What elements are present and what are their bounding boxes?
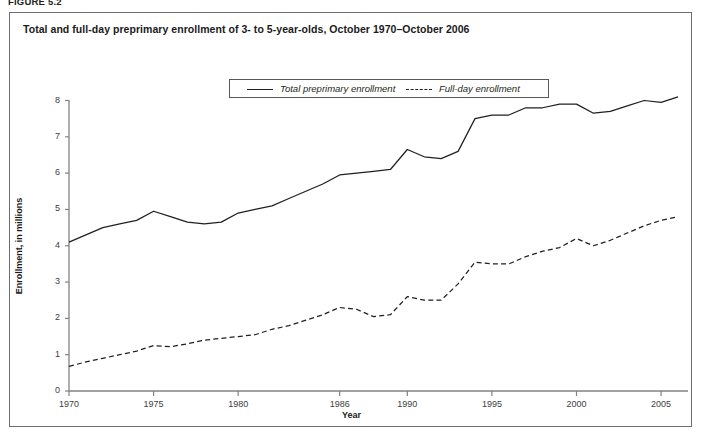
y-axis-tick-label: 1	[44, 349, 60, 359]
figure-label: FIGURE 5.2	[8, 0, 62, 9]
figure-panel: Total and full-day preprimary enrollment…	[9, 12, 692, 427]
x-axis-tick-label: 2005	[641, 399, 681, 409]
y-axis-tick-label: 8	[44, 95, 60, 105]
x-axis-tick-label: 1986	[320, 399, 360, 409]
x-axis-tick-label: 1975	[134, 399, 174, 409]
x-axis-tick-label: 1990	[387, 399, 427, 409]
y-axis-tick-label: 7	[44, 131, 60, 141]
chart-plot-area	[10, 13, 693, 428]
y-axis-tick-label: 2	[44, 312, 60, 322]
y-axis-tick-label: 5	[44, 203, 60, 213]
series-line-full-day-enrollment	[69, 217, 678, 367]
y-axis-tick-label: 3	[44, 276, 60, 286]
y-axis-tick-label: 0	[44, 385, 60, 395]
chart-svg	[10, 13, 693, 428]
x-axis-tick-label: 1970	[49, 399, 89, 409]
y-axis-tick-label: 4	[44, 240, 60, 250]
series-line-total-preprimary-enrollment	[69, 97, 678, 242]
x-axis-title: Year	[10, 410, 693, 420]
chart-series-group	[69, 97, 678, 366]
x-axis-tick-label: 1980	[218, 399, 258, 409]
y-axis-title: Enrollment, in millions	[14, 176, 24, 316]
x-axis-tick-label: 1995	[472, 399, 512, 409]
x-axis-ticks	[69, 391, 661, 396]
x-axis-tick-label: 2000	[557, 399, 597, 409]
y-axis-tick-label: 6	[44, 167, 60, 177]
